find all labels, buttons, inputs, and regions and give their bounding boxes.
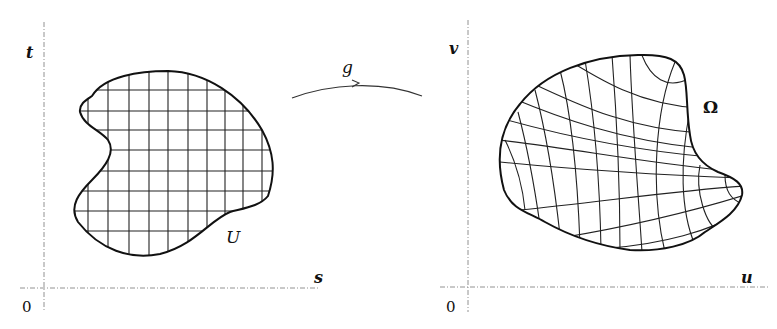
t-axis-label: t — [26, 43, 34, 62]
s-axis-label: s — [313, 268, 323, 287]
left-panel: 0 t s U — [20, 22, 323, 316]
origin-label-right: 0 — [446, 298, 456, 316]
region-U-label: U — [226, 227, 241, 247]
mapping-g: g — [292, 57, 422, 98]
change-of-variables-diagram: 0 t s U g — [0, 0, 777, 329]
region-omega-outline — [500, 55, 743, 250]
right-panel: 0 v u Ω — [440, 20, 770, 316]
origin-label-left: 0 — [22, 298, 32, 316]
region-omega-label: Ω — [703, 97, 718, 117]
curved-arrow — [292, 86, 422, 98]
v-axis-label: v — [449, 39, 459, 58]
u-axis-label: u — [741, 268, 753, 287]
curvilinear-grid — [498, 50, 745, 252]
mapping-label: g — [342, 57, 353, 77]
